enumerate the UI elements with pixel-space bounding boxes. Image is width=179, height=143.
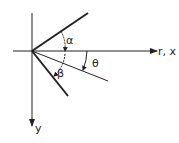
theta-label: θ xyxy=(92,57,99,70)
horizontal-axis-label: r, x xyxy=(158,45,177,58)
vertical-axis-label: y xyxy=(35,122,42,135)
alpha-arc xyxy=(61,31,65,51)
coordinate-angle-diagram: α θ β r, x y xyxy=(0,0,179,143)
beta-label: β xyxy=(57,67,64,80)
upper-boundary-line xyxy=(32,13,88,51)
theta-arc xyxy=(83,51,87,70)
alpha-label: α xyxy=(66,34,73,47)
